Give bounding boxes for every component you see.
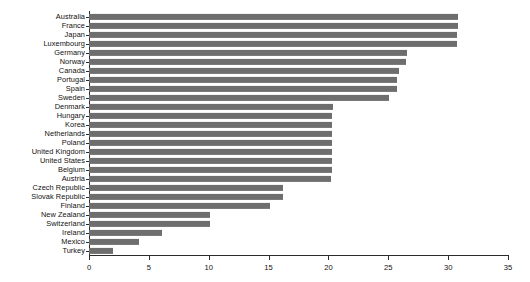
bar (89, 166, 332, 172)
category-label: Czech Republic (33, 184, 85, 192)
y-axis-tick (86, 80, 89, 81)
bar (89, 22, 458, 28)
y-axis-tick (86, 242, 89, 243)
x-axis-tick (388, 256, 389, 260)
y-axis-tick (86, 26, 89, 27)
y-axis-tick (86, 188, 89, 189)
bar-row (89, 192, 508, 201)
bar (89, 193, 283, 199)
y-axis-tick (86, 53, 89, 54)
bar-row (89, 201, 508, 210)
bar (89, 247, 113, 253)
category-label: Mexico (61, 238, 85, 246)
bar (89, 148, 332, 154)
category-label: Korea (65, 121, 85, 129)
x-axis-line (89, 255, 509, 256)
bar (89, 220, 210, 226)
bar (89, 58, 406, 64)
category-label: France (62, 22, 85, 30)
y-axis-tick (86, 98, 89, 99)
x-axis-tick-label: 25 (384, 263, 392, 272)
x-axis-tick-label: 0 (87, 263, 91, 272)
bar-row (89, 129, 508, 138)
x-axis-tick-label: 5 (147, 263, 151, 272)
category-label: Austria (62, 175, 85, 183)
y-axis-tick (86, 233, 89, 234)
bar-row (89, 237, 508, 246)
x-axis-tick (209, 256, 210, 260)
bar (89, 49, 407, 55)
bar (89, 76, 397, 82)
bar-row (89, 147, 508, 156)
category-label: United States (40, 157, 85, 165)
x-axis-tick-label: 15 (264, 263, 272, 272)
category-label: Turkey (62, 247, 85, 255)
y-axis-tick (86, 197, 89, 198)
bar (89, 130, 332, 136)
bar-row (89, 48, 508, 57)
y-axis-tick (86, 170, 89, 171)
y-axis-tick (86, 89, 89, 90)
bar (89, 184, 283, 190)
bar-row (89, 84, 508, 93)
y-axis-tick (86, 107, 89, 108)
bar (89, 139, 332, 145)
category-label: Germany (54, 49, 85, 57)
category-label: Finland (60, 202, 85, 210)
y-axis-tick (86, 35, 89, 36)
category-label: Canada (59, 67, 85, 75)
category-label: Australia (56, 13, 85, 21)
bar (89, 31, 457, 37)
category-label: Slovak Republic (31, 193, 85, 201)
category-label: Portugal (57, 76, 85, 84)
bar-row (89, 39, 508, 48)
y-axis-tick (86, 71, 89, 72)
category-label: New Zealand (41, 211, 85, 219)
bar (89, 211, 210, 217)
category-label: Spain (66, 85, 85, 93)
bar-row (89, 120, 508, 129)
x-axis-tick (328, 256, 329, 260)
category-label-row: Turkey (0, 246, 89, 255)
bar (89, 175, 331, 181)
bar (89, 13, 458, 19)
bar-row (89, 30, 508, 39)
x-axis-tick-label: 30 (444, 263, 452, 272)
y-axis-tick (86, 251, 89, 252)
bar (89, 40, 457, 46)
category-label: Denmark (55, 103, 85, 111)
category-label: Sweden (58, 94, 85, 102)
y-axis-tick (86, 161, 89, 162)
bar (89, 238, 139, 244)
y-axis-tick (86, 134, 89, 135)
category-label: Ireland (62, 229, 85, 237)
category-label: United Kingdom (32, 148, 85, 156)
bar-row (89, 165, 508, 174)
category-label: Belgium (58, 166, 85, 174)
bar-row (89, 111, 508, 120)
bar (89, 202, 270, 208)
y-axis-tick (86, 143, 89, 144)
y-axis-tick (86, 215, 89, 216)
bar-row (89, 228, 508, 237)
bar-row (89, 21, 508, 30)
category-label: Japan (65, 31, 85, 39)
category-axis-labels: AustraliaFranceJapanLuxembourgGermanyNor… (0, 12, 89, 255)
bar-row (89, 102, 508, 111)
category-label: Poland (62, 139, 85, 147)
x-axis-tick (448, 256, 449, 260)
plot-area (89, 12, 508, 255)
bar (89, 103, 333, 109)
bar-chart: AustraliaFranceJapanLuxembourgGermanyNor… (0, 0, 530, 282)
category-label: Switzerland (46, 220, 85, 228)
bar-row (89, 219, 508, 228)
y-axis-tick (86, 116, 89, 117)
x-axis-tick (149, 256, 150, 260)
bar (89, 121, 332, 127)
bar-row (89, 174, 508, 183)
bar-row (89, 138, 508, 147)
x-axis-tick (89, 256, 90, 260)
y-axis-tick (86, 179, 89, 180)
bar-row (89, 210, 508, 219)
category-label: Netherlands (45, 130, 85, 138)
